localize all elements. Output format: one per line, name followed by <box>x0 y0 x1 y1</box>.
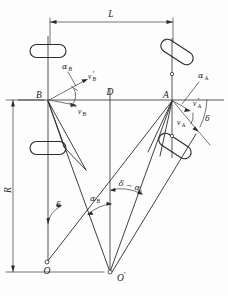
angle-label-delta-minus-alpha-A: δ − α A <box>117 179 144 195</box>
angle-label-dma-subscript: A <box>138 188 143 195</box>
arrowhead-left-icon <box>50 20 57 24</box>
front-left-kingpin-dot <box>170 72 173 75</box>
line-front-wheel-to-Oprime <box>112 134 196 272</box>
point-label-B: B <box>36 90 42 100</box>
vector-vA-prime-line <box>173 101 189 110</box>
front-right-kingpin-dot <box>170 134 173 137</box>
vector-label-vB-subscript: B <box>83 111 87 117</box>
angle-label-alpha-A-symbol: α <box>198 71 204 80</box>
front-left-wheel <box>158 37 195 68</box>
vector-vB-prime-line <box>49 80 86 100</box>
centre-point-O <box>45 260 49 264</box>
arrowhead-right-icon <box>167 20 174 24</box>
angle-label-alpha-B-upper: α B <box>62 62 73 72</box>
angle-label-alpha-B-lower-subscript: B <box>97 198 101 204</box>
dimension-turn-radius-R <box>6 100 104 272</box>
vector-vB-prime-arrowhead-icon <box>81 79 88 83</box>
point-label-O: O <box>44 266 51 276</box>
dimension-label-L: L <box>107 9 113 19</box>
diagram-canvas: L R B D A O O ' α B α A δ δ α B <box>0 0 228 296</box>
point-label-A: A <box>162 90 169 100</box>
steering-geometry-figure: L R B D A O O ' α B α A δ δ α B <box>0 0 228 296</box>
angle-label-alpha-A-upper: α A <box>198 71 209 81</box>
angle-label-alpha-B-lower-symbol: α <box>90 194 96 203</box>
vector-label-vA-prime-subscript: A <box>198 103 202 109</box>
angle-label-alpha-B-symbol: α <box>62 62 68 71</box>
point-label-Oprime-tick: ' <box>124 271 126 280</box>
point-label-Oprime-group: O ' <box>117 271 126 283</box>
line-B-strut <box>48 101 64 147</box>
slip-angle-arc-A <box>191 113 193 124</box>
point-label-D: D <box>106 87 114 97</box>
dimension-wheelbase-L <box>50 18 173 44</box>
vector-vA-arrowhead-icon <box>192 127 199 132</box>
vector-vA-extension <box>199 132 210 145</box>
vector-label-vB-symbol: v <box>78 107 82 116</box>
dimension-label-R: R <box>3 187 13 194</box>
vector-label-vB-prime-subscript: B <box>93 76 97 82</box>
arc-delta-arrow-1-icon <box>46 218 50 224</box>
vector-label-vB-prime: v ' B <box>88 70 97 83</box>
slip-angle-arc-B <box>73 89 76 104</box>
angle-label-alpha-A-subscript: A <box>205 75 209 81</box>
angle-label-alpha-B-subscript: B <box>69 66 73 72</box>
arc-alphaB-arrow-2-icon <box>106 202 112 206</box>
angle-label-delta-steer: δ <box>205 114 210 123</box>
arrowhead-top-icon <box>11 100 15 107</box>
vector-label-vA-symbol: v <box>177 118 181 127</box>
angle-label-delta-at-O: δ <box>56 200 61 209</box>
line-A-to-O <box>47 101 172 262</box>
vector-vB-arrowhead-icon <box>70 103 77 107</box>
vector-label-vB: v B <box>78 107 87 117</box>
centre-point-Oprime <box>108 270 112 274</box>
vector-label-vA-prime: v ' A <box>193 97 202 110</box>
velocity-vectors-at-B <box>49 72 88 107</box>
vector-label-vA-subscript: A <box>182 122 186 128</box>
vector-label-vA: v A <box>177 118 186 128</box>
arrowhead-bottom-icon <box>11 266 15 273</box>
alpha-B-leader <box>68 72 76 86</box>
